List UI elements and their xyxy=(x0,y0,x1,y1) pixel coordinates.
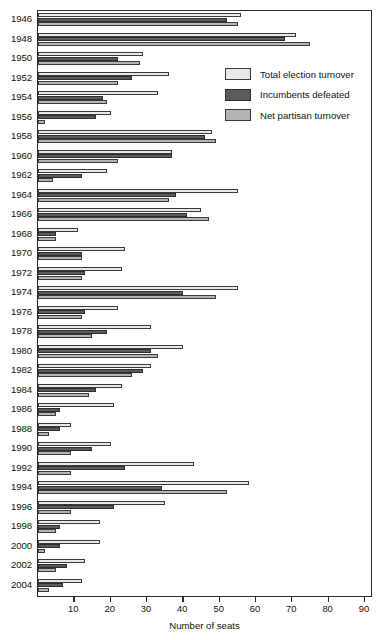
x-tick-label-80: 80 xyxy=(322,603,332,614)
bar-total-1956 xyxy=(38,111,111,115)
bar-incumbents-1976 xyxy=(38,310,85,314)
bar-netpartisan-1986 xyxy=(38,412,56,416)
bar-incumbents-1954 xyxy=(38,96,103,100)
bar-incumbents-1966 xyxy=(38,213,187,217)
bar-total-1962 xyxy=(38,169,107,173)
x-tick-label-30: 30 xyxy=(141,603,151,614)
y-axis-label-1946: 1946 xyxy=(11,14,32,24)
bar-total-1980 xyxy=(38,345,183,349)
bar-total-1984 xyxy=(38,384,122,388)
y-axis-label-1962: 1962 xyxy=(11,170,32,180)
bar-incumbents-1980 xyxy=(38,349,151,353)
legend-label-total: Total election turnover xyxy=(260,69,354,80)
bar-total-1954 xyxy=(38,91,158,95)
bar-group-2004 xyxy=(38,577,371,597)
x-axis: 102030405060708090 xyxy=(37,597,372,617)
bar-total-1986 xyxy=(38,403,114,407)
bar-group-2002 xyxy=(38,557,371,577)
bar-incumbents-2002 xyxy=(38,564,67,568)
bar-incumbents-1958 xyxy=(38,135,205,139)
bar-incumbents-1956 xyxy=(38,115,96,119)
bar-group-1972 xyxy=(38,265,371,285)
bar-incumbents-1946 xyxy=(38,18,227,22)
bar-group-1980 xyxy=(38,343,371,363)
bar-group-1988 xyxy=(38,421,371,441)
bar-netpartisan-1960 xyxy=(38,159,118,163)
bar-group-1960 xyxy=(38,148,371,168)
bar-netpartisan-1948 xyxy=(38,42,310,46)
bar-incumbents-1960 xyxy=(38,154,172,158)
x-tick-20 xyxy=(110,597,111,602)
bar-total-1982 xyxy=(38,364,151,368)
bar-total-1958 xyxy=(38,130,212,134)
bar-netpartisan-1970 xyxy=(38,256,82,260)
y-axis-label-2000: 2000 xyxy=(11,541,32,551)
bar-netpartisan-1952 xyxy=(38,81,118,85)
legend-item-netpartisan: Net partisan turnover xyxy=(225,109,354,121)
bar-group-1946 xyxy=(38,11,371,31)
bar-incumbents-1964 xyxy=(38,193,176,197)
bar-group-1996 xyxy=(38,499,371,519)
bar-incumbents-1996 xyxy=(38,505,114,509)
bar-total-1960 xyxy=(38,150,172,154)
x-tick-label-50: 50 xyxy=(213,603,223,614)
x-tick-40 xyxy=(182,597,183,602)
bar-netpartisan-1964 xyxy=(38,198,169,202)
bar-total-1968 xyxy=(38,228,78,232)
bar-netpartisan-1984 xyxy=(38,393,89,397)
bar-netpartisan-1972 xyxy=(38,276,82,280)
bar-netpartisan-1974 xyxy=(38,295,216,299)
bar-group-1968 xyxy=(38,226,371,246)
y-axis-label-1966: 1966 xyxy=(11,209,32,219)
bar-netpartisan-1978 xyxy=(38,334,92,338)
bar-netpartisan-2000 xyxy=(38,549,45,553)
bar-netpartisan-1950 xyxy=(38,61,140,65)
y-axis-label-1988: 1988 xyxy=(11,424,32,434)
y-axis-label-1980: 1980 xyxy=(11,346,32,356)
legend-swatch-total xyxy=(225,68,251,80)
bar-group-1948 xyxy=(38,31,371,51)
bar-incumbents-1974 xyxy=(38,291,183,295)
bar-total-2004 xyxy=(38,579,82,583)
bar-netpartisan-1988 xyxy=(38,432,49,436)
bar-total-1994 xyxy=(38,481,249,485)
bar-total-1998 xyxy=(38,520,100,524)
bar-total-1950 xyxy=(38,52,143,56)
y-axis-label-1996: 1996 xyxy=(11,502,32,512)
bar-incumbents-1978 xyxy=(38,330,107,334)
bar-incumbents-1950 xyxy=(38,57,118,61)
bar-netpartisan-2002 xyxy=(38,568,56,572)
x-tick-60 xyxy=(255,597,256,602)
bar-total-1970 xyxy=(38,247,125,251)
bar-total-1966 xyxy=(38,208,201,212)
bar-netpartisan-1976 xyxy=(38,315,82,319)
bar-group-1994 xyxy=(38,479,371,499)
y-axis-label-1986: 1986 xyxy=(11,404,32,414)
legend-swatch-incumbents xyxy=(225,89,251,101)
bar-total-1948 xyxy=(38,33,296,37)
y-axis-label-1990: 1990 xyxy=(11,443,32,453)
bar-incumbents-1992 xyxy=(38,466,125,470)
bar-group-1950 xyxy=(38,50,371,70)
bar-incumbents-1952 xyxy=(38,76,132,80)
bar-group-1976 xyxy=(38,304,371,324)
chart-legend: Total election turnoverIncumbents defeat… xyxy=(225,68,354,130)
bar-group-1974 xyxy=(38,284,371,304)
x-tick-90 xyxy=(364,597,365,602)
bar-group-1964 xyxy=(38,187,371,207)
y-axis-label-1976: 1976 xyxy=(11,307,32,317)
bar-incumbents-1990 xyxy=(38,447,92,451)
bar-total-1988 xyxy=(38,423,71,427)
y-axis-label-1964: 1964 xyxy=(11,190,32,200)
bar-group-1998 xyxy=(38,518,371,538)
bar-incumbents-1972 xyxy=(38,271,85,275)
bar-netpartisan-1994 xyxy=(38,490,227,494)
y-axis-label-1954: 1954 xyxy=(11,92,32,102)
bar-incumbents-1998 xyxy=(38,525,60,529)
legend-swatch-netpartisan xyxy=(225,109,251,121)
bar-incumbents-1982 xyxy=(38,369,143,373)
y-axis-label-1972: 1972 xyxy=(11,268,32,278)
bar-total-1996 xyxy=(38,501,165,505)
bar-netpartisan-1968 xyxy=(38,237,56,241)
y-axis-label-1968: 1968 xyxy=(11,229,32,239)
